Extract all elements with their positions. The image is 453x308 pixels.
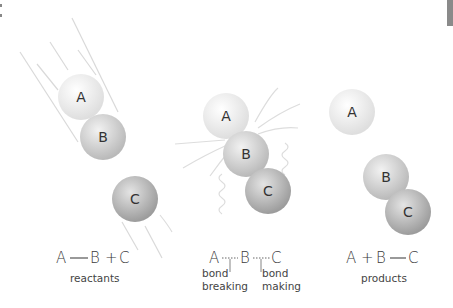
edge-mark <box>0 4 2 7</box>
svg-text:+: + <box>105 249 118 267</box>
svg-text:A: A <box>221 108 231 124</box>
products-atoms: A B C <box>329 89 431 235</box>
svg-text:B: B <box>376 249 386 267</box>
reactants-atoms: A B C <box>58 74 158 222</box>
svg-text:B: B <box>240 249 250 267</box>
svg-text:C: C <box>130 191 140 207</box>
svg-text:A: A <box>56 249 66 267</box>
svg-text:B: B <box>381 169 391 185</box>
svg-text:C: C <box>119 249 129 267</box>
svg-text:C: C <box>271 249 281 267</box>
svg-text:bond: bond <box>262 267 288 279</box>
svg-text:+: + <box>361 249 374 267</box>
transition-atoms: A B C <box>203 93 291 214</box>
svg-text:C: C <box>408 249 418 267</box>
reactants-caption: reactants <box>70 272 120 284</box>
products-caption: products <box>361 272 407 284</box>
reactants-equation: A B + C <box>56 249 129 267</box>
atom-a: A <box>329 89 375 135</box>
svg-text:C: C <box>403 204 413 220</box>
svg-text:breaking: breaking <box>202 280 248 292</box>
svg-text:A: A <box>76 89 86 105</box>
atom-b: B <box>80 114 126 160</box>
svg-text:B: B <box>241 146 251 162</box>
products-equation: A + B C <box>346 249 418 267</box>
bond-making-label: bond making <box>262 267 301 292</box>
edge-mark <box>0 14 2 17</box>
svg-text:A: A <box>347 104 357 120</box>
reaction-diagram: A B C A B C A B <box>0 0 453 308</box>
svg-text:bond: bond <box>202 267 228 279</box>
atom-a: A <box>58 74 104 120</box>
svg-text:A: A <box>209 249 219 267</box>
svg-text:C: C <box>263 183 273 199</box>
svg-text:B: B <box>98 129 108 145</box>
svg-text:making: making <box>262 280 301 292</box>
bond-breaking-label: bond breaking <box>202 267 248 292</box>
atom-c: C <box>112 176 158 222</box>
atom-c: C <box>245 168 291 214</box>
svg-text:B: B <box>90 249 100 267</box>
svg-text:A: A <box>346 249 356 267</box>
atom-c: C <box>385 189 431 235</box>
page-edge-bar <box>447 0 453 26</box>
